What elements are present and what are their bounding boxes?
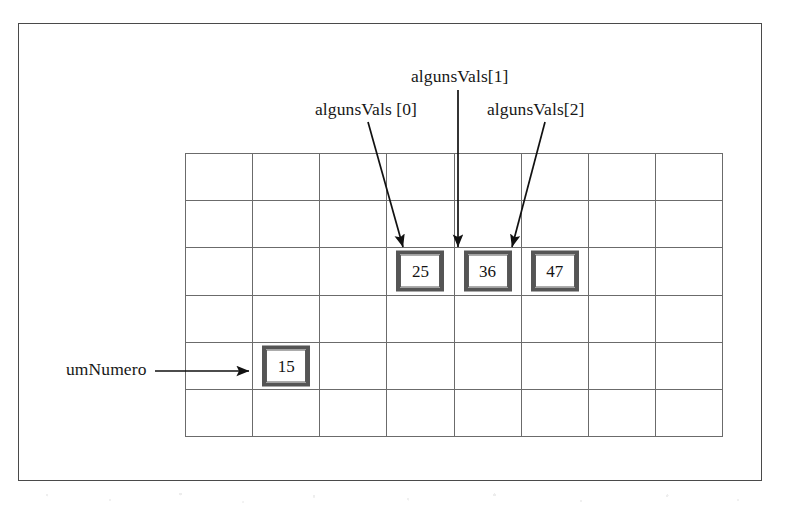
value-box-algunsVals-2: 47 bbox=[531, 251, 579, 292]
grid-cell-r1c2 bbox=[253, 154, 320, 201]
grid-cell-r1c6 bbox=[522, 154, 589, 201]
label-algunsVals-1: algunsVals[1] bbox=[411, 66, 509, 87]
label-algunsVals-0: algunsVals [0] bbox=[315, 99, 417, 120]
value-box-inner: 36 bbox=[468, 255, 508, 288]
grid-cell-r4c2 bbox=[253, 296, 320, 343]
grid-cell-r5c3 bbox=[320, 343, 387, 390]
grid-cell-r4c8 bbox=[656, 296, 723, 343]
value-text-algunsVals-1: 36 bbox=[479, 263, 496, 280]
grid-cell-r2c2 bbox=[253, 201, 320, 248]
grid-cell-r3c7 bbox=[589, 248, 656, 295]
grid-cell-r5c8 bbox=[656, 343, 723, 390]
grid-cell-r6c6 bbox=[522, 390, 589, 437]
grid-cell-r6c5 bbox=[455, 390, 522, 437]
value-box-inner: 25 bbox=[400, 255, 440, 288]
grid-cell-r6c2 bbox=[253, 390, 320, 437]
grid-cell-r2c8 bbox=[656, 201, 723, 248]
grid-cell-r3c5: 36 bbox=[455, 248, 522, 295]
grid-cell-r1c3 bbox=[320, 154, 387, 201]
grid-cell-r4c6 bbox=[522, 296, 589, 343]
grid-cell-r3c4: 25 bbox=[387, 248, 454, 295]
grid-cell-r5c2: 15 bbox=[253, 343, 320, 390]
grid-cell-r4c1 bbox=[186, 296, 253, 343]
grid-cell-r6c7 bbox=[589, 390, 656, 437]
grid-cell-r5c7 bbox=[589, 343, 656, 390]
value-text-algunsVals-2: 47 bbox=[546, 263, 563, 280]
grid-cell-r1c7 bbox=[589, 154, 656, 201]
grid-cell-r2c1 bbox=[186, 201, 253, 248]
grid-cell-r6c4 bbox=[387, 390, 454, 437]
grid-cell-r4c4 bbox=[387, 296, 454, 343]
value-text-algunsVals-0: 25 bbox=[412, 263, 429, 280]
grid-cell-r3c1 bbox=[186, 248, 253, 295]
grid-cell-r3c8 bbox=[656, 248, 723, 295]
grid-cell-r2c6 bbox=[522, 201, 589, 248]
grid-cell-r2c4 bbox=[387, 201, 454, 248]
grid-cell-r3c2 bbox=[253, 248, 320, 295]
value-box-umNumero: 15 bbox=[262, 345, 310, 386]
grid-cell-r4c5 bbox=[455, 296, 522, 343]
grid-cell-r3c6: 47 bbox=[522, 248, 589, 295]
memory-grid: 25 36 47 bbox=[185, 153, 723, 437]
scan-noise-artifact bbox=[0, 486, 785, 509]
diagram-page: 25 36 47 bbox=[0, 0, 785, 509]
value-box-inner: 47 bbox=[535, 255, 575, 288]
grid-cell-r1c5 bbox=[455, 154, 522, 201]
value-box-algunsVals-0: 25 bbox=[396, 251, 444, 292]
grid-cell-r5c6 bbox=[522, 343, 589, 390]
grid-cell-r3c3 bbox=[320, 248, 387, 295]
value-text-umNumero: 15 bbox=[278, 357, 295, 374]
grid-cell-r2c3 bbox=[320, 201, 387, 248]
grid-cell-r1c8 bbox=[656, 154, 723, 201]
label-umNumero: umNumero bbox=[66, 359, 147, 380]
grid-cell-r5c5 bbox=[455, 343, 522, 390]
value-box-inner: 15 bbox=[266, 349, 306, 382]
grid-cell-r2c7 bbox=[589, 201, 656, 248]
grid-cell-r1c1 bbox=[186, 154, 253, 201]
grid-cell-r5c4 bbox=[387, 343, 454, 390]
value-box-algunsVals-1: 36 bbox=[464, 251, 512, 292]
grid-cell-r2c5 bbox=[455, 201, 522, 248]
grid-cell-r6c8 bbox=[656, 390, 723, 437]
grid-cell-r5c1 bbox=[186, 343, 253, 390]
grid-cell-r4c7 bbox=[589, 296, 656, 343]
grid-cell-r1c4 bbox=[387, 154, 454, 201]
grid-cell-r4c3 bbox=[320, 296, 387, 343]
label-algunsVals-2: algunsVals[2] bbox=[487, 99, 585, 120]
grid-cell-r6c3 bbox=[320, 390, 387, 437]
grid-cell-r6c1 bbox=[186, 390, 253, 437]
